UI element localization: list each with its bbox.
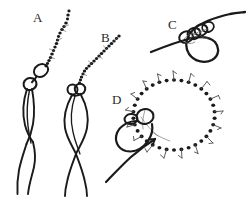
figure-canvas: A B C D <box>0 0 246 200</box>
panel-label-d: D <box>112 93 121 106</box>
panel-label-b: B <box>101 31 110 44</box>
panel-label-a: A <box>33 11 42 24</box>
panel-label-c: C <box>168 18 177 31</box>
figure-drawing <box>0 0 246 200</box>
